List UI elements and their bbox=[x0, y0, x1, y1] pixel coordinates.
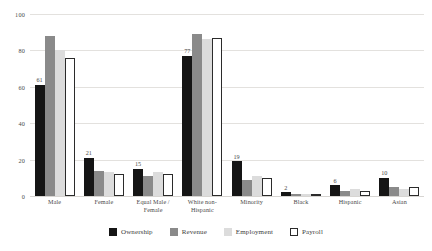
bar-slot bbox=[389, 14, 399, 196]
x-axis-category-label: Female bbox=[79, 198, 128, 222]
bar-value-label: 61 bbox=[36, 76, 42, 83]
x-axis-category-label: Asian bbox=[375, 198, 424, 222]
bar bbox=[232, 161, 242, 196]
bar bbox=[55, 50, 65, 196]
bar-slot bbox=[94, 14, 104, 196]
bar-group: 2 bbox=[276, 14, 325, 196]
bar bbox=[182, 56, 192, 196]
bar-slot: 21 bbox=[84, 14, 94, 196]
x-axis-category-label: Male bbox=[30, 198, 79, 222]
y-axis-tick-label: 20 bbox=[18, 156, 25, 163]
bar bbox=[163, 174, 173, 196]
bar bbox=[94, 171, 104, 196]
legend-label: Payroll bbox=[302, 228, 323, 236]
bar bbox=[84, 158, 94, 196]
bar-slot bbox=[291, 14, 301, 196]
bar-slot bbox=[114, 14, 124, 196]
bar-slot bbox=[143, 14, 153, 196]
legend-label: Employment bbox=[236, 228, 273, 236]
bar-slot: 19 bbox=[232, 14, 242, 196]
bar bbox=[252, 176, 262, 196]
x-axis-category-label: Black bbox=[276, 198, 325, 222]
legend-item[interactable]: Ownership bbox=[109, 228, 153, 236]
bar-group: 15 bbox=[129, 14, 178, 196]
bar bbox=[153, 172, 163, 196]
bar bbox=[192, 34, 202, 196]
bar-group: 21 bbox=[79, 14, 128, 196]
y-axis-tick-label: 100 bbox=[15, 11, 25, 18]
y-axis-tick-label: 80 bbox=[18, 47, 25, 54]
bar-value-label: 21 bbox=[86, 149, 92, 156]
bar bbox=[330, 185, 340, 196]
bar bbox=[291, 194, 301, 196]
gridline bbox=[30, 196, 424, 197]
bar-slot bbox=[301, 14, 311, 196]
bar-slot bbox=[45, 14, 55, 196]
bar-value-label: 6 bbox=[334, 177, 337, 184]
x-axis-category-label: Hispanic bbox=[326, 198, 375, 222]
black-filled-swatch bbox=[109, 228, 117, 236]
bar bbox=[114, 174, 124, 196]
x-axis-category-label: White non-Hispanic bbox=[178, 198, 227, 222]
bar bbox=[409, 187, 419, 196]
bar bbox=[350, 189, 360, 196]
legend-item[interactable]: Payroll bbox=[290, 228, 323, 236]
bar-slot: 15 bbox=[133, 14, 143, 196]
dark-gray-filled-swatch bbox=[170, 228, 178, 236]
x-axis-category-label: Minority bbox=[227, 198, 276, 222]
bar-slot: 6 bbox=[330, 14, 340, 196]
bar-slot bbox=[409, 14, 419, 196]
bar-group: 61 bbox=[30, 14, 79, 196]
bar bbox=[262, 178, 272, 196]
chart-legend: OwnershipRevenueEmploymentPayroll bbox=[0, 228, 432, 236]
bar-value-label: 15 bbox=[135, 160, 141, 167]
bar-value-label: 2 bbox=[284, 184, 287, 191]
plot-area: 61211577192610 bbox=[30, 14, 424, 196]
bar-slot bbox=[252, 14, 262, 196]
legend-label: Ownership bbox=[121, 228, 153, 236]
legend-item[interactable]: Employment bbox=[224, 228, 273, 236]
y-axis-tick-label: 60 bbox=[18, 83, 25, 90]
bar-slot bbox=[360, 14, 370, 196]
bar bbox=[281, 192, 291, 196]
x-axis-category-label: Equal Male / Female bbox=[129, 198, 178, 222]
bar-group: 10 bbox=[375, 14, 424, 196]
bar bbox=[311, 194, 321, 196]
bar-slot: 77 bbox=[182, 14, 192, 196]
bar-slot bbox=[163, 14, 173, 196]
bar-group: 19 bbox=[227, 14, 276, 196]
legend-item[interactable]: Revenue bbox=[170, 228, 207, 236]
bar-slot bbox=[55, 14, 65, 196]
x-axis: MaleFemaleEqual Male / FemaleWhite non-H… bbox=[30, 198, 424, 222]
bar bbox=[202, 39, 212, 196]
white-outlined-swatch bbox=[290, 228, 298, 236]
bar-slot bbox=[350, 14, 360, 196]
y-axis: 100806040200 bbox=[0, 14, 30, 196]
bar-slot bbox=[262, 14, 272, 196]
bar-slot bbox=[340, 14, 350, 196]
bar-slot bbox=[153, 14, 163, 196]
bar-slot: 2 bbox=[281, 14, 291, 196]
bar bbox=[389, 187, 399, 196]
bar-value-label: 19 bbox=[233, 153, 239, 160]
bar-slot bbox=[399, 14, 409, 196]
bar-slot bbox=[192, 14, 202, 196]
bar bbox=[35, 85, 45, 196]
y-axis-tick-label: 40 bbox=[18, 120, 25, 127]
bar bbox=[360, 191, 370, 196]
legend-label: Revenue bbox=[182, 228, 207, 236]
light-gray-filled-swatch bbox=[224, 228, 232, 236]
y-axis-tick-label: 0 bbox=[22, 193, 25, 200]
bar-group: 77 bbox=[178, 14, 227, 196]
bar-slot bbox=[311, 14, 321, 196]
bar bbox=[212, 38, 222, 196]
bar-chart: 100806040200 61211577192610 MaleFemaleEq… bbox=[0, 0, 432, 251]
bar-slot bbox=[65, 14, 75, 196]
bar-groups: 61211577192610 bbox=[30, 14, 424, 196]
bar bbox=[399, 189, 409, 196]
bar bbox=[379, 178, 389, 196]
bar bbox=[65, 58, 75, 196]
bar bbox=[340, 191, 350, 196]
bar bbox=[133, 169, 143, 196]
bar-slot: 10 bbox=[379, 14, 389, 196]
